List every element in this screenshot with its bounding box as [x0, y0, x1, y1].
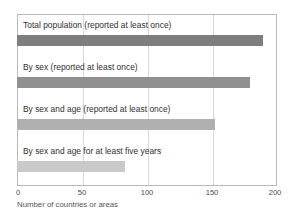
x-tick-0: 0: [16, 188, 20, 197]
bar[interactable]: [17, 161, 125, 172]
x-tick-200: 200: [269, 188, 282, 197]
bar-label: By sex (reported at least once): [23, 62, 138, 73]
chart-container: Total population (reported at least once…: [0, 0, 294, 218]
x-tick-150: 150: [206, 188, 219, 197]
bar-label: By sex and age (reported at least once): [23, 104, 170, 115]
x-axis: 0 50 100 150 200: [17, 186, 277, 200]
bar[interactable]: [17, 35, 263, 46]
bar-group-1: By sex (reported at least once): [17, 60, 277, 103]
bar-label: Total population (reported at least once…: [23, 20, 171, 31]
bar-label: By sex and age for at least five years: [23, 146, 161, 157]
bar-series: Total population (reported at least once…: [17, 14, 277, 186]
x-tick-100: 100: [141, 188, 154, 197]
bar[interactable]: [17, 77, 250, 88]
bar-group-0: Total population (reported at least once…: [17, 18, 277, 61]
bar-group-3: By sex and age for at least five years: [17, 144, 277, 187]
bar-group-2: By sex and age (reported at least once): [17, 102, 277, 145]
x-axis-caption: Number of countries or areas: [17, 200, 118, 209]
bar[interactable]: [17, 119, 215, 130]
x-tick-50: 50: [78, 188, 86, 197]
